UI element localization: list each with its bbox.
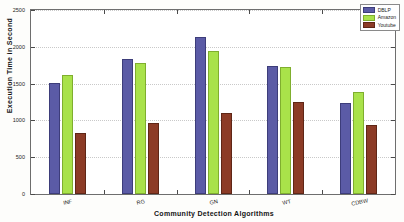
legend-item-youtube[interactable]: Youtube bbox=[363, 22, 396, 28]
bar-chart-figure: Execution Time in Second Community Detec… bbox=[0, 0, 404, 222]
y-axis-tick-label: 2000 bbox=[0, 44, 25, 50]
y-axis-tick bbox=[31, 47, 35, 48]
bar-rg-dblp bbox=[122, 59, 133, 194]
legend-item-amazon[interactable]: Amazon bbox=[363, 15, 396, 21]
legend-label: DBLP bbox=[378, 8, 391, 13]
bar-inf-amazon bbox=[62, 75, 73, 194]
y-axis-tick-label: 1000 bbox=[0, 117, 25, 123]
bar-cdbw-youtube bbox=[366, 125, 377, 194]
x-axis-tick bbox=[177, 190, 178, 194]
bar-gn-youtube bbox=[221, 113, 232, 194]
bar-cdbw-dblp bbox=[340, 103, 351, 194]
bar-gn-amazon bbox=[208, 51, 219, 194]
x-axis-tick bbox=[249, 190, 250, 194]
bar-rg-youtube bbox=[148, 123, 159, 194]
y-axis-tick-label: 1500 bbox=[0, 81, 25, 87]
y-axis-tick bbox=[391, 194, 395, 195]
legend-swatch-youtube bbox=[363, 22, 375, 28]
bar-cdbw-amazon bbox=[353, 92, 364, 194]
y-axis-tick bbox=[391, 157, 395, 158]
bar-wt-dblp bbox=[267, 66, 278, 194]
legend-label: Youtube bbox=[378, 23, 396, 28]
bar-wt-amazon bbox=[280, 67, 291, 194]
x-axis-tick bbox=[177, 10, 178, 14]
x-axis-tick bbox=[104, 190, 105, 194]
y-axis-tick bbox=[31, 84, 35, 85]
legend-swatch-dblp bbox=[363, 7, 375, 13]
x-axis-tick-label: CDBW bbox=[334, 194, 384, 210]
bar-wt-youtube bbox=[293, 102, 304, 194]
x-axis-tick bbox=[104, 10, 105, 14]
x-axis-tick-label: WT bbox=[261, 194, 311, 210]
y-axis-tick bbox=[391, 120, 395, 121]
bar-inf-dblp bbox=[49, 83, 60, 194]
gridline bbox=[31, 47, 395, 48]
y-axis-tick bbox=[31, 10, 35, 11]
legend-label: Amazon bbox=[378, 15, 396, 20]
chart-legend: DBLPAmazonYoutube bbox=[360, 4, 400, 31]
y-axis-tick bbox=[391, 47, 395, 48]
x-axis-tick bbox=[249, 10, 250, 14]
bar-rg-amazon bbox=[135, 63, 146, 194]
bar-inf-youtube bbox=[75, 133, 86, 194]
legend-item-dblp[interactable]: DBLP bbox=[363, 7, 396, 13]
y-axis-tick bbox=[31, 157, 35, 158]
x-axis-tick bbox=[322, 10, 323, 14]
gridline bbox=[31, 10, 395, 11]
x-axis-tick-label: INF bbox=[43, 194, 93, 210]
x-axis-title: Community Detection Algorithms bbox=[30, 210, 398, 217]
x-axis-tick-label: RG bbox=[116, 194, 166, 210]
x-axis-tick-label: GN bbox=[189, 194, 239, 210]
plot-area: 05001000150020002500INFRGGNWTCDBW bbox=[30, 9, 396, 195]
y-axis-tick-label: 500 bbox=[0, 154, 25, 160]
y-axis-tick bbox=[31, 194, 35, 195]
y-axis-tick bbox=[391, 84, 395, 85]
legend-swatch-amazon bbox=[363, 15, 375, 21]
y-axis-tick-label: 2500 bbox=[0, 7, 25, 13]
bar-gn-dblp bbox=[195, 37, 206, 195]
x-axis-tick bbox=[322, 190, 323, 194]
y-axis-tick-label: 0 bbox=[0, 191, 25, 197]
y-axis-tick bbox=[31, 120, 35, 121]
